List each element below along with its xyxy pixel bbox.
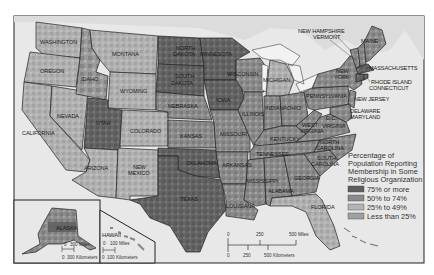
legend-label-75-plus: 75% or more [367,185,409,194]
label-illinois: ILLINOIS [242,111,265,117]
svg-text:250: 250 [243,253,251,258]
label-west-virginia-2: VIRGINIA [300,128,324,134]
label-maryland: MARYLAND [350,114,380,120]
label-iowa: IOWA [216,97,231,103]
label-north-carolina-2: CAROLINA [316,145,344,151]
label-south-dakota-2: DAKOTA [171,80,193,86]
svg-text:500 Miles: 500 Miles [289,232,309,237]
label-oregon: OREGON [40,68,64,74]
label-wyoming: WYOMING [120,88,147,94]
legend-swatch-50-74 [348,195,364,201]
label-indiana: INDIANA [265,105,287,111]
label-mississippi: MISSISSIPPI [246,178,279,184]
label-dc: D.C. [326,115,337,121]
label-kansas: KANSAS [180,133,202,139]
label-arkansas: ARKANSAS [222,162,252,168]
label-south-carolina-2: CAROLINA [311,161,339,167]
legend-title-line-4: Religious Organization [348,175,422,184]
label-kentucky: KENTUCKY [270,136,300,142]
label-utah: UTAH [96,120,110,126]
label-nebraska: NEBRASKA [168,103,198,109]
label-nevada: NEVADA [57,113,79,119]
svg-text:0: 0 [64,242,67,247]
label-hawaii: HAWAII [102,232,121,238]
label-idaho: IDAHO [81,76,99,82]
label-pennsylvania: PENNSYLVANIA [306,93,347,99]
label-maine: MAINE [361,38,379,44]
state-indiana [264,96,282,130]
legend-swatch-less-25 [348,213,364,219]
label-virginia: VIRGINIA [322,123,346,129]
label-ohio: OHIO [287,105,302,111]
label-montana: MONTANA [112,51,139,57]
legend-swatch-25-49 [348,204,364,210]
state-arkansas [216,152,248,184]
state-iowa [204,80,244,110]
label-alaska: ALASKA [56,225,78,231]
svg-text:0: 0 [102,255,105,260]
svg-text:100 Miles: 100 Miles [110,241,130,246]
label-texas: TEXAS [180,196,198,202]
label-florida: FLORIDA [311,204,335,210]
label-california: CALIFORNIA [22,130,55,136]
label-new-mexico-2: MEXICO [128,170,150,176]
label-south-dakota-1: SOUTH [175,73,194,79]
label-alabama: ALABAMA [268,188,294,194]
label-new-york-2: YORK [334,74,350,80]
svg-text:300 Miles: 300 Miles [70,242,90,247]
svg-text:0: 0 [227,253,230,258]
svg-text:100 Kilometers: 100 Kilometers [107,255,138,260]
label-tennessee: TENNESSEE [256,151,289,157]
label-minnesota: MINNESOTA [200,51,232,57]
label-oklahoma: OKLAHOMA [186,160,217,166]
svg-text:250: 250 [256,232,264,237]
label-michigan: MICHIGAN [263,77,290,83]
label-massachusetts: MASSACHUSETTS [369,65,418,71]
label-colorado: COLORADO [130,128,162,134]
legend-label-50-74: 50% to 74% [367,194,407,203]
label-arizona: ARIZONA [84,165,109,171]
svg-text:300 Kilometers: 300 Kilometers [67,255,98,260]
legend-label-25-49: 25% to 49% [367,203,407,212]
label-connecticut: CONNECTICUT [369,85,409,91]
us-religious-membership-map: ALASKA 0 300 Miles 0 300 Kilometers HAWA… [0,0,434,275]
legend-label-less-25: Less than 25% [367,212,416,221]
label-wisconsin: WISCONSIN [227,71,258,77]
svg-text:500 Kilometers: 500 Kilometers [264,253,295,258]
svg-text:0: 0 [103,241,106,246]
svg-text:0: 0 [227,232,230,237]
label-vermont: VERMONT [313,34,341,40]
label-new-jersey: NEW JERSEY [354,96,390,102]
label-louisiana: LOUISIANA [226,203,255,209]
label-washington: WASHINGTON [40,39,77,45]
label-georgia: GEORGIA [294,175,320,181]
legend-swatch-75-plus [348,186,364,192]
label-north-dakota-2: DAKOTA [173,51,195,57]
svg-text:0: 0 [62,255,65,260]
alaska-inset: ALASKA 0 300 Miles 0 300 Kilometers [14,200,100,263]
label-missouri: MISSOURI [220,131,247,137]
